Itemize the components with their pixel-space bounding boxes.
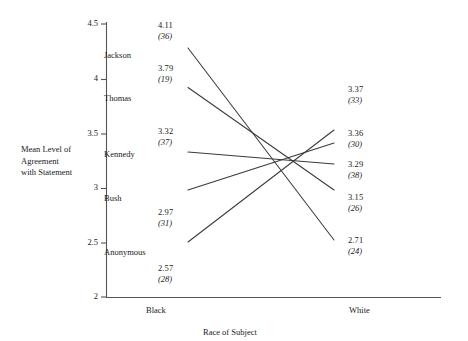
y-axis-title-line-1: Mean Level of — [21, 144, 101, 156]
series-label-thomas: Thomas — [104, 93, 131, 103]
data-value-bush-black: 2.97 — [158, 207, 173, 218]
series-label-kennedy: Kennedy — [104, 149, 135, 159]
data-label-bush-white: 3.36 (30) — [348, 128, 363, 150]
data-label-bush-black: 2.97 (31) — [158, 207, 173, 229]
data-label-thomas-white: 3.15 (26) — [348, 192, 363, 214]
y-axis-title: Mean Level of Agreement with Statement — [21, 144, 101, 179]
y-axis-title-line-2: Agreement — [21, 156, 101, 168]
x-axis-title: Race of Subject — [203, 327, 257, 337]
data-n-jackson-white: (24) — [348, 246, 363, 257]
data-label-jackson-black: 4.11 (36) — [158, 20, 173, 42]
series-line-kennedy — [188, 152, 334, 164]
series-lines — [188, 48, 334, 242]
data-value-thomas-black: 3.79 — [158, 63, 173, 74]
y-tick-label-4: 4 — [70, 73, 98, 83]
series-label-jackson: Jackson — [104, 50, 131, 60]
x-category-label-white: White — [349, 305, 370, 315]
data-n-jackson-black: (36) — [158, 31, 173, 42]
series-line-jackson — [188, 48, 334, 240]
data-label-kennedy-black: 3.32 (37) — [158, 126, 173, 148]
data-label-anonymous-black: 2.57 (28) — [158, 263, 173, 285]
data-label-thomas-black: 3.79 (19) — [158, 63, 173, 85]
y-tick-label-4-5: 4.5 — [70, 18, 98, 28]
data-n-anonymous-white: (33) — [348, 95, 363, 106]
data-n-kennedy-black: (37) — [158, 137, 173, 148]
series-label-bush: Bush — [104, 193, 121, 203]
y-tick-label-3-5: 3.5 — [70, 128, 98, 138]
data-value-kennedy-white: 3.29 — [348, 159, 363, 170]
data-n-thomas-white: (26) — [348, 203, 363, 214]
data-label-anonymous-white: 3.37 (33) — [348, 84, 363, 106]
data-value-kennedy-black: 3.32 — [158, 126, 173, 137]
data-value-anonymous-black: 2.57 — [158, 263, 173, 274]
data-n-anonymous-black: (28) — [158, 274, 173, 285]
series-line-anonymous — [188, 130, 334, 242]
series-line-thomas — [188, 88, 334, 191]
data-n-bush-white: (30) — [348, 139, 363, 150]
data-label-jackson-white: 2.71 (24) — [348, 235, 363, 257]
series-line-bush — [188, 143, 334, 190]
data-label-kennedy-white: 3.29 (38) — [348, 159, 363, 181]
x-category-label-black: Black — [146, 305, 166, 315]
data-value-anonymous-white: 3.37 — [348, 84, 363, 95]
data-value-jackson-white: 2.71 — [348, 235, 363, 246]
y-axis-title-line-3: with Statement — [21, 167, 101, 179]
data-n-bush-black: (31) — [158, 218, 173, 229]
y-tick-label-3: 3 — [70, 182, 98, 192]
data-n-thomas-black: (19) — [158, 74, 173, 85]
data-n-kennedy-white: (38) — [348, 170, 363, 181]
data-value-thomas-white: 3.15 — [348, 192, 363, 203]
y-tick-label-2-5: 2.5 — [70, 237, 98, 247]
series-label-anonymous: Anonymous — [104, 247, 146, 257]
data-value-jackson-black: 4.11 — [158, 20, 173, 31]
data-value-bush-white: 3.36 — [348, 128, 363, 139]
y-tick-label-2: 2 — [70, 291, 98, 301]
chart-canvas: 4.5 4 3.5 3 2.5 2 Mean Level of Agreemen… — [0, 0, 468, 341]
